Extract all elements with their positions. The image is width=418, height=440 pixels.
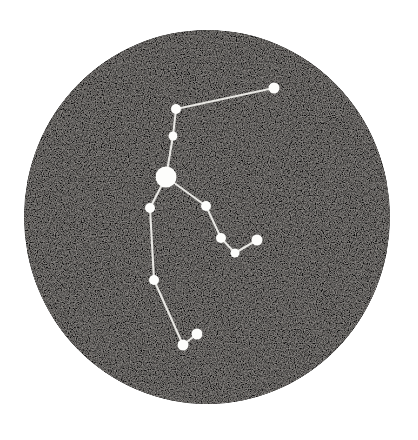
- constellation-chart: [0, 0, 418, 440]
- star-s6: [201, 201, 211, 211]
- star-s1: [269, 83, 280, 94]
- star-s12: [192, 329, 203, 340]
- star-s3: [169, 132, 178, 141]
- star-s2: [171, 104, 181, 114]
- star-s11: [178, 340, 189, 351]
- star-s5: [145, 203, 155, 213]
- sky-canvas: [0, 0, 418, 440]
- star-s10: [149, 275, 159, 285]
- star-s7: [216, 233, 226, 243]
- star-s8: [231, 249, 240, 258]
- star-s9: [252, 235, 263, 246]
- star-s4: [156, 167, 177, 188]
- sky-disc-group: [24, 30, 390, 404]
- sky-grain-texture: [24, 30, 390, 404]
